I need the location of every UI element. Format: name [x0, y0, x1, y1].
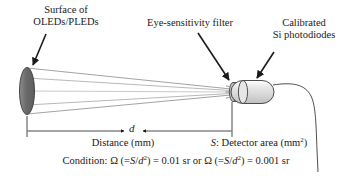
condition-close-1: ) =	[147, 155, 162, 166]
condition-omega-2: Ω	[204, 155, 212, 166]
label-si-photodiodes-line2: Si photodiodes	[273, 29, 336, 40]
leader-arrow-photodiodes	[257, 52, 274, 78]
light-cone	[27, 68, 231, 114]
label-oled-surface-line2: OLEDs/PLEDs	[33, 16, 98, 27]
distance-symbol: d	[129, 122, 135, 134]
si-photodiode-housing	[231, 81, 274, 104]
label-condition: Condition: Ω (=S/d2) = 0.01 sr or Ω (=S/…	[0, 155, 352, 167]
condition-close-2: ) =	[241, 155, 256, 166]
condition-conjunction: or	[190, 155, 204, 166]
oled-surface-ellipse	[20, 68, 35, 115]
label-oled-surface-line1: Surface of	[44, 4, 87, 15]
condition-prefix: Condition:	[63, 155, 111, 166]
label-si-photodiodes-line1: Calibrated	[282, 17, 326, 28]
label-distance: Distance (mm)	[58, 137, 188, 149]
leader-arrow-surface	[33, 34, 46, 65]
label-eye-sensitivity-filter: Eye-sensitivity filter	[122, 17, 258, 29]
measurement-geometry-figure: Surface of OLEDs/PLEDs Eye-sensitivity f…	[0, 0, 352, 178]
leader-arrow-filter	[198, 33, 229, 80]
label-si-photodiodes: Calibrated Si photodiodes	[258, 17, 350, 41]
label-detector-area: S: Detector area (mm2)	[186, 137, 332, 149]
condition-value-1: 0.01 sr	[162, 155, 191, 166]
detector-area-close: )	[304, 137, 308, 148]
detector-area-text: : Detector area (mm	[216, 137, 300, 148]
leader-arrows	[33, 33, 274, 80]
label-oled-surface: Surface of OLEDs/PLEDs	[14, 4, 118, 28]
condition-open-1: (=	[118, 155, 130, 166]
condition-omega-1: Ω	[110, 155, 118, 166]
condition-value-2: 0.001 sr	[256, 155, 290, 166]
condition-open-2: (=	[212, 155, 224, 166]
